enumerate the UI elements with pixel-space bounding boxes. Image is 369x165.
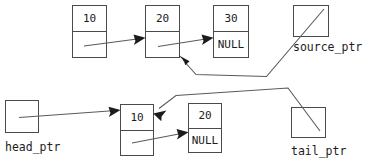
bottom-node-2: 20 NULL — [189, 104, 222, 153]
top-node-1-value: 10 — [83, 12, 96, 25]
link-tail-ptr-to-bottom-node1-arrowhead — [153, 111, 166, 122]
bottom-node-2-value: 20 — [198, 109, 211, 122]
bottom-node-1-value: 10 — [130, 111, 143, 124]
link-head-ptr-to-bottom-node1-arrowhead — [109, 107, 121, 117]
diagram-canvas: 10 20 30 NULL 10 — [0, 0, 369, 165]
top-node-2-value: 20 — [156, 12, 169, 25]
tail-ptr-label: tail_ptr — [291, 144, 346, 158]
head-ptr-label: head_ptr — [5, 140, 60, 154]
link-bottom-node1-to-node2-arrowhead — [177, 129, 189, 139]
source-ptr-label: source_ptr — [293, 40, 362, 54]
top-node-3-null: NULL — [218, 38, 245, 51]
tail-ptr-box — [292, 108, 326, 138]
tail-ptr-box-group — [292, 108, 326, 138]
link-source-ptr-to-top-node2-arrowhead — [179, 55, 190, 65]
top-node-2: 20 — [146, 6, 180, 58]
bottom-node-2-null: NULL — [192, 134, 219, 147]
link-top-node2-to-node3-arrowhead — [202, 35, 214, 45]
top-node-3: 30 NULL — [214, 6, 249, 58]
top-node-3-value: 30 — [224, 12, 237, 25]
bottom-node-1: 10 — [121, 105, 154, 156]
link-top-node1-to-node2-arrowhead — [134, 35, 146, 45]
linked-list-diagram: 10 20 30 NULL 10 — [0, 0, 369, 165]
top-node-1: 10 — [73, 6, 107, 58]
